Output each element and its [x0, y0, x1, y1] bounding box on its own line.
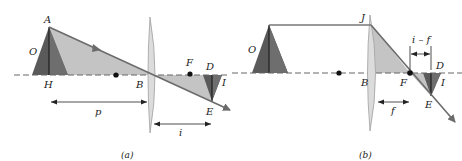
panel-b: J O B F D I E i – f f (b) — [232, 12, 462, 160]
label-a: A — [43, 14, 51, 25]
label-e-b: E — [424, 99, 433, 110]
object-right-half-b — [269, 25, 288, 73]
label-i-minus-f: i – f — [412, 34, 433, 45]
focal-point-f — [187, 71, 192, 76]
label-h: H — [43, 79, 53, 90]
label-e: E — [205, 106, 214, 117]
label-f-b: F — [399, 77, 408, 88]
label-p: p — [95, 106, 102, 117]
label-o: O — [29, 46, 37, 57]
label-b-b: B — [360, 77, 368, 88]
lens-diagram: A O H B F D I E p i (a) — [0, 0, 462, 161]
label-f-distance: f — [390, 105, 397, 116]
label-i-b: I — [440, 77, 446, 88]
image-right-half — [212, 75, 222, 101]
label-i-image: I — [221, 77, 227, 88]
label-o-b: O — [248, 44, 256, 55]
image-right-half-b — [431, 73, 441, 96]
label-b: B — [135, 79, 143, 90]
caption-b: (b) — [359, 150, 372, 160]
focal-point-left-b — [336, 70, 341, 75]
label-d: D — [205, 61, 214, 72]
focal-point-left — [113, 72, 118, 77]
label-j: J — [359, 12, 366, 23]
label-f: F — [185, 57, 194, 68]
panel-a: A O H B F D I E p i (a) — [14, 14, 230, 160]
focal-point-f-b — [407, 70, 413, 76]
label-i-distance: i — [179, 127, 182, 138]
caption-a: (a) — [121, 150, 134, 160]
label-d-b: D — [435, 60, 444, 71]
